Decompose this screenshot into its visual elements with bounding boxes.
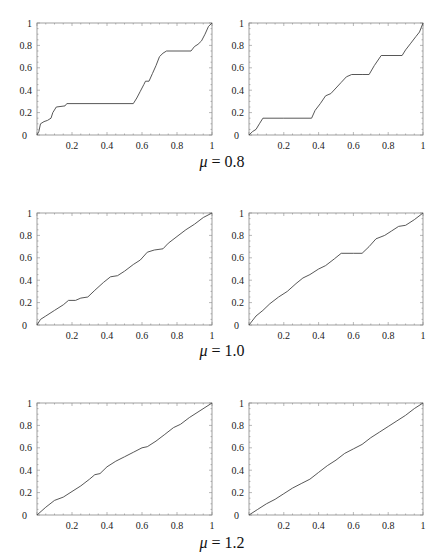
y-tick-label: 0.6 <box>232 252 245 263</box>
mu-symbol: μ <box>199 153 207 170</box>
mu-value: = 1.0 <box>212 342 245 359</box>
chart-mu-0-8-right: 00.20.40.60.810.20.40.60.81 <box>212 0 434 160</box>
y-tick-label: 0.8 <box>20 40 33 51</box>
x-tick-label: 0.2 <box>66 520 79 531</box>
y-tick-label: 0.6 <box>232 62 245 73</box>
caption-mu-1-2: μ = 1.2 <box>0 534 444 552</box>
x-tick-label: 0.4 <box>101 520 114 531</box>
y-tick-label: 0.2 <box>20 297 33 308</box>
y-tick-label: 0 <box>234 320 239 331</box>
y-tick-label: 0.2 <box>232 297 245 308</box>
y-tick-label: 0.4 <box>20 275 33 286</box>
chart-mu-1-0-left: 00.20.40.60.810.20.40.60.81 <box>0 190 222 350</box>
x-tick-label: 0.8 <box>382 520 395 531</box>
y-tick-label: 0.4 <box>232 275 245 286</box>
x-tick-label: 0.8 <box>171 520 184 531</box>
y-tick-label: 0.4 <box>20 85 33 96</box>
x-tick-label: 0.4 <box>312 140 325 151</box>
mu-symbol: μ <box>199 342 207 359</box>
x-tick-label: 0.6 <box>347 330 360 341</box>
y-tick-label: 0.2 <box>20 487 33 498</box>
y-tick-label: 0 <box>22 320 27 331</box>
x-tick-label: 0.6 <box>136 520 149 531</box>
x-tick-label: 0.4 <box>312 520 325 531</box>
x-tick-label: 0.4 <box>101 140 114 151</box>
x-tick-label: 0.8 <box>382 330 395 341</box>
caption-mu-0-8: μ = 0.8 <box>0 153 444 171</box>
x-tick-label: 0.6 <box>347 140 360 151</box>
x-tick-label: 0.4 <box>312 330 325 341</box>
y-tick-label: 0.8 <box>232 420 245 431</box>
data-line <box>37 403 212 515</box>
x-tick-label: 0.4 <box>101 330 114 341</box>
mu-value: = 1.2 <box>212 534 245 551</box>
chart-mu-0-8-left: 00.20.40.60.810.20.40.60.81 <box>0 0 222 160</box>
y-tick-label: 1 <box>239 18 244 29</box>
x-tick-label: 0.8 <box>171 330 184 341</box>
plot-frame <box>37 23 212 135</box>
y-tick-label: 0 <box>22 130 27 141</box>
y-tick-label: 1 <box>239 398 244 409</box>
plot-frame <box>249 403 423 515</box>
data-line <box>37 213 212 325</box>
plot-frame <box>249 213 423 325</box>
y-tick-label: 0.2 <box>232 487 245 498</box>
x-tick-label: 0.2 <box>66 140 79 151</box>
y-tick-label: 0.6 <box>232 442 245 453</box>
y-tick-label: 1 <box>27 208 32 219</box>
y-tick-label: 0.4 <box>232 85 245 96</box>
y-tick-label: 0.8 <box>20 420 33 431</box>
x-tick-label: 1 <box>421 330 426 341</box>
y-tick-label: 0.4 <box>20 465 33 476</box>
x-tick-label: 1 <box>421 520 426 531</box>
mu-symbol: μ <box>199 534 207 551</box>
x-tick-label: 0.6 <box>136 140 149 151</box>
chart-mu-1-2-left: 00.20.40.60.810.20.40.60.81 <box>0 380 222 540</box>
x-tick-label: 0.6 <box>136 330 149 341</box>
x-tick-label: 0.6 <box>347 520 360 531</box>
data-line <box>37 23 212 135</box>
y-tick-label: 0.6 <box>20 62 33 73</box>
y-tick-label: 0 <box>234 130 239 141</box>
chart-mu-1-2-right: 00.20.40.60.810.20.40.60.81 <box>212 380 434 540</box>
y-tick-label: 0.8 <box>232 40 245 51</box>
x-tick-label: 0.8 <box>171 140 184 151</box>
x-tick-label: 0.2 <box>278 330 291 341</box>
data-line <box>249 213 423 325</box>
y-tick-label: 0.6 <box>20 442 33 453</box>
y-tick-label: 0.4 <box>232 465 245 476</box>
x-tick-label: 0.2 <box>278 140 291 151</box>
x-tick-label: 0.8 <box>382 140 395 151</box>
x-tick-label: 0.2 <box>66 330 79 341</box>
data-line <box>249 23 423 135</box>
y-tick-label: 1 <box>239 208 244 219</box>
y-tick-label: 0 <box>234 510 239 521</box>
y-tick-label: 0 <box>22 510 27 521</box>
caption-mu-1-0: μ = 1.0 <box>0 342 444 360</box>
y-tick-label: 0.2 <box>232 107 245 118</box>
data-line <box>249 403 423 515</box>
chart-mu-1-0-right: 00.20.40.60.810.20.40.60.81 <box>212 190 434 350</box>
x-tick-label: 0.2 <box>278 520 291 531</box>
mu-value: = 0.8 <box>212 153 245 170</box>
y-tick-label: 0.6 <box>20 252 33 263</box>
x-tick-label: 1 <box>421 140 426 151</box>
y-tick-label: 0.8 <box>20 230 33 241</box>
y-tick-label: 1 <box>27 398 32 409</box>
y-tick-label: 0.8 <box>232 230 245 241</box>
y-tick-label: 1 <box>27 18 32 29</box>
y-tick-label: 0.2 <box>20 107 33 118</box>
